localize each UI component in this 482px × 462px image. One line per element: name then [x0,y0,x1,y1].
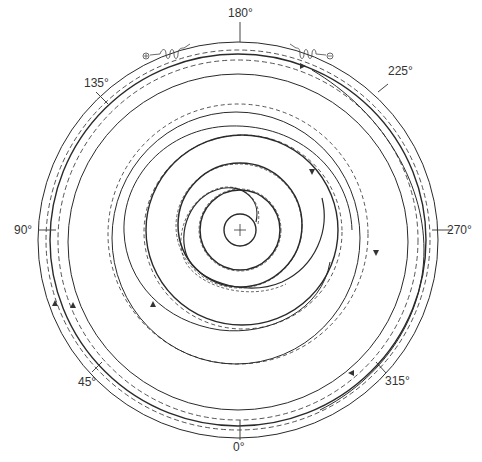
orbit-5 [112,112,360,364]
arrow-icon [373,250,379,256]
tick-315 [376,362,386,373]
spiral-mid [124,126,352,331]
angle-label-225: 225° [388,64,413,78]
angle-label-315: 315° [385,374,410,388]
angle-label-0: 0° [233,440,244,454]
angle-label-45: 45° [78,375,96,389]
arrow-icon [52,300,58,306]
tick-135 [96,92,108,104]
orbit-outer [38,42,438,438]
orbit-7 [50,54,426,426]
arrow-icon [309,169,315,175]
angle-label-135: 135° [84,76,109,90]
tick-225 [378,84,388,92]
angle-label-90: 90° [14,223,32,237]
outer-arc-right [312,70,424,410]
arrow-icon [348,370,354,376]
center-cross-icon [234,224,246,236]
arrow-icon [70,302,76,308]
orbit-6 [68,74,408,410]
arrow-icon [300,63,306,69]
angle-label-180: 180° [228,6,253,20]
negative-particle-coil-icon [290,44,316,59]
angle-label-270: 270° [447,223,472,237]
arrow-icon [150,301,156,307]
